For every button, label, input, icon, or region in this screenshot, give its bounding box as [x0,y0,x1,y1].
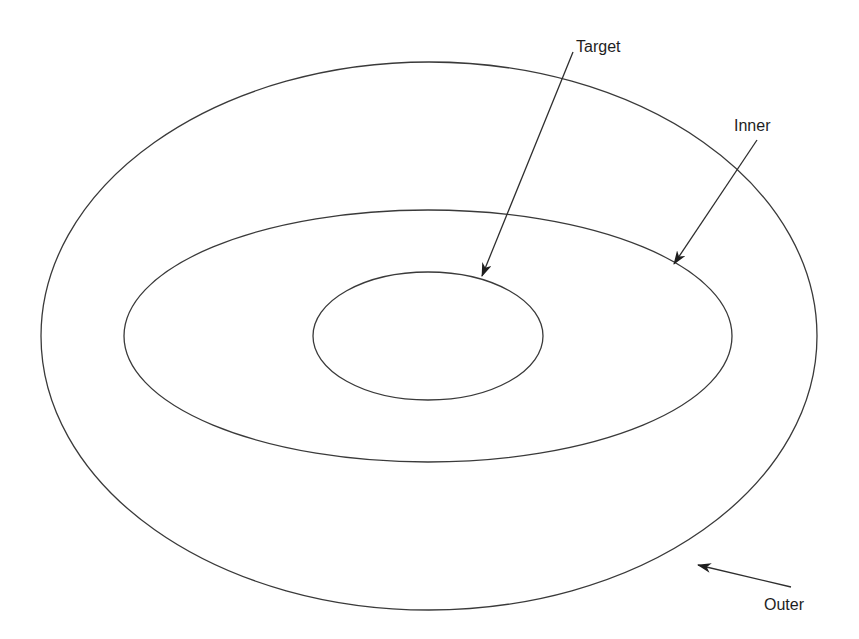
outer-ellipse [41,62,817,610]
target-label: Target [576,38,621,55]
concentric-ellipse-diagram: Target Inner Outer [0,0,859,639]
target-ellipse [313,272,543,400]
inner-ellipse [124,210,732,462]
inner-arrow-icon [674,140,757,264]
outer-label: Outer [764,596,805,613]
outer-arrow-icon [698,565,791,587]
target-arrow-icon [482,52,573,276]
inner-label: Inner [734,117,771,134]
